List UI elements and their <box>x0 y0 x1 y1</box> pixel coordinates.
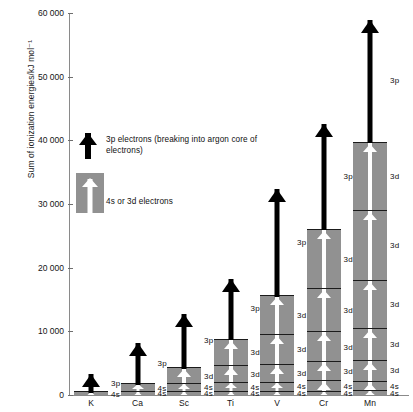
white-up-arrow-icon <box>224 366 238 382</box>
white-up-arrow-icon <box>363 143 377 211</box>
legend-item-4s3d: 4s or 3d electrons <box>76 173 286 213</box>
arrow-label-3p: 3p <box>297 237 306 246</box>
legend-label-3p: 3p electrons (breaking into argon core o… <box>106 133 286 156</box>
x-label-v: V <box>257 398 297 408</box>
white-up-arrow-icon <box>363 382 377 391</box>
up-arrow-icon <box>79 133 97 159</box>
bar-segment-4s <box>121 391 155 396</box>
bar-segment-3d <box>353 328 387 360</box>
legend-key-3p <box>76 133 106 159</box>
y-tick-label: 30 000 <box>38 199 64 209</box>
white-up-arrow-icon <box>317 230 331 288</box>
y-tick-label: 10 000 <box>38 326 64 336</box>
segment-label-3d: 3d <box>390 241 399 250</box>
bar-segment-3d <box>307 331 341 361</box>
white-up-arrow-icon <box>363 329 377 360</box>
segment-label-3d: 3d <box>344 306 353 315</box>
bar-segment-4s <box>214 391 248 396</box>
bar-segment-4s <box>307 380 341 390</box>
y-tick-mark <box>68 13 73 14</box>
y-tick-label: 20 000 <box>38 263 64 273</box>
segment-label-3d: 3d <box>390 171 399 180</box>
bar-cr[interactable] <box>307 229 341 395</box>
white-up-arrow-icon <box>317 332 331 361</box>
white-up-arrow-icon <box>363 361 377 381</box>
y-tick-label: 50 000 <box>38 72 64 82</box>
y-tick-mark <box>68 395 73 396</box>
segment-label-3d: 3d <box>344 342 353 351</box>
x-label-ti: Ti <box>211 398 251 408</box>
white-up-arrow-icon <box>270 383 284 391</box>
bar-segment-3d <box>260 364 294 382</box>
segment-label-3d: 3d <box>251 348 260 357</box>
segment-label-3d: 3d <box>390 366 399 375</box>
segment-label-4s: 4s <box>204 383 213 392</box>
bar-ti[interactable] <box>214 339 248 395</box>
x-label-k: K <box>71 398 111 408</box>
bar-segment-4s <box>307 391 341 396</box>
white-up-arrow-icon <box>270 365 284 382</box>
bar-segment-3d <box>307 288 341 331</box>
arrow-3p-cr <box>315 124 333 231</box>
y-tick-mark <box>68 77 73 78</box>
y-axis-title: Sum of ionization energies/kJ mol⁻¹ <box>26 14 36 204</box>
bar-v[interactable] <box>260 295 294 395</box>
y-tick-label: 0 <box>59 390 64 400</box>
arrow-label-3p: 3p <box>158 359 167 368</box>
white-up-arrow-icon <box>270 335 284 363</box>
legend-key-4s3d <box>76 173 106 213</box>
segment-label-4s: 4s <box>344 381 353 390</box>
arrow-3p-ca <box>129 343 147 385</box>
bar-segment-4s <box>260 391 294 396</box>
legend-label-4s3d: 4s or 3d electrons <box>106 173 173 208</box>
white-up-arrow-icon <box>317 362 331 380</box>
white-up-arrow-icon <box>317 392 331 396</box>
bar-segment-3d <box>307 361 341 380</box>
arrow-3p-k <box>82 374 100 394</box>
bar-swatch-icon <box>76 173 104 213</box>
arrow-label-3p: 3p <box>344 171 353 180</box>
white-up-arrow-icon <box>177 368 191 382</box>
segment-label-3d: 3d <box>390 300 399 309</box>
x-label-mn: Mn <box>350 398 390 408</box>
arrow-label-3p: 3p <box>204 336 213 345</box>
x-label-ca: Ca <box>118 398 158 408</box>
segment-label-4s: 4s <box>390 381 399 390</box>
y-tick-mark <box>68 140 73 141</box>
white-up-arrow-icon <box>224 392 238 396</box>
arrow-label-3p: 3p <box>251 304 260 313</box>
legend-item-3p: 3p electrons (breaking into argon core o… <box>76 133 286 159</box>
bar-ca[interactable] <box>121 383 155 395</box>
segment-label-3d: 3d <box>251 370 260 379</box>
bar-segment-3d <box>167 367 201 382</box>
bar-segment-4s <box>353 381 387 391</box>
white-up-arrow-icon <box>363 391 377 395</box>
segment-label-4s: 4s <box>251 382 260 391</box>
bar-segment-4s <box>260 382 294 391</box>
white-up-arrow-icon <box>317 289 331 331</box>
white-up-arrow-icon <box>317 381 331 390</box>
white-up-arrow-icon <box>224 383 238 390</box>
white-up-arrow-icon <box>177 384 191 391</box>
y-tick-mark <box>68 204 73 205</box>
arrow-3p-ti <box>222 279 240 340</box>
segment-label-3d: 3d <box>297 311 306 320</box>
bar-segment-3d <box>353 360 387 381</box>
bar-segment-3d <box>260 295 294 334</box>
white-up-arrow-icon <box>224 340 238 366</box>
segment-label-3d: 3d <box>297 368 306 377</box>
bar-mn[interactable] <box>353 142 387 395</box>
bar-sc[interactable] <box>167 367 201 395</box>
chart-page: Sum of ionization energies/kJ mol⁻¹ 010 … <box>0 0 413 412</box>
white-up-arrow-icon <box>177 392 191 396</box>
bar-segment-3d <box>307 229 341 288</box>
bar-segment-3d <box>260 334 294 363</box>
bar-segment-4s <box>353 390 387 395</box>
segment-label-3d: 3d <box>344 367 353 376</box>
y-tick-label: 60 000 <box>38 8 64 18</box>
segment-label-4s: 4s <box>158 383 167 392</box>
x-label-cr: Cr <box>304 398 344 408</box>
segment-label-3d: 3d <box>390 339 399 348</box>
segment-label-3d: 3d <box>204 371 213 380</box>
bar-segment-4s <box>214 382 248 390</box>
